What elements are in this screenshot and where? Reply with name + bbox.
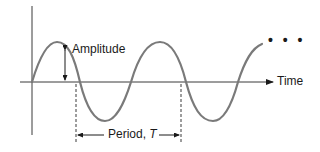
period-label-prefix: Period, bbox=[108, 127, 149, 141]
amplitude-label: Amplitude bbox=[72, 42, 125, 56]
continuation-ellipsis: • • • bbox=[268, 32, 305, 48]
period-label: Period, T bbox=[106, 127, 159, 141]
diagram-canvas bbox=[0, 0, 320, 152]
sine-wave-diagram: Amplitude Time Period, T • • • bbox=[0, 0, 320, 152]
time-axis-label: Time bbox=[277, 74, 303, 88]
period-symbol: T bbox=[149, 127, 156, 141]
